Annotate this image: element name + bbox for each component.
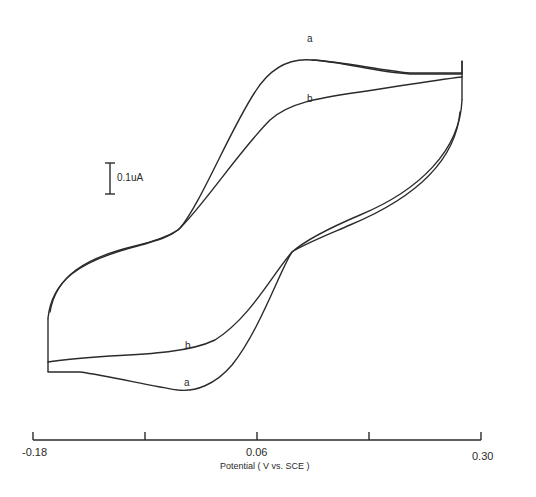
curve-b-bottom-label: b bbox=[185, 340, 191, 351]
voltammogram-chart: a b b a 0.1uA -0.18 0.06 0.30 Potential … bbox=[0, 0, 536, 497]
curve-b-top-label: b bbox=[307, 93, 313, 104]
curve-b-cathodic bbox=[48, 100, 462, 362]
x-axis: -0.18 0.06 0.30 Potential ( V vs. SCE ) bbox=[22, 432, 493, 471]
tick-label-right: 0.30 bbox=[472, 450, 493, 462]
curve-a-top-label: a bbox=[307, 33, 313, 44]
tick-label-left: -0.18 bbox=[22, 446, 47, 458]
scale-bar-label: 0.1uA bbox=[117, 172, 143, 183]
x-axis-title: Potential ( V vs. SCE ) bbox=[220, 461, 310, 471]
curve-a-cathodic bbox=[48, 112, 460, 390]
curve-a-bottom-label: a bbox=[184, 377, 190, 388]
current-scale-bar: 0.1uA bbox=[105, 163, 143, 194]
tick-label-mid: 0.06 bbox=[246, 446, 267, 458]
